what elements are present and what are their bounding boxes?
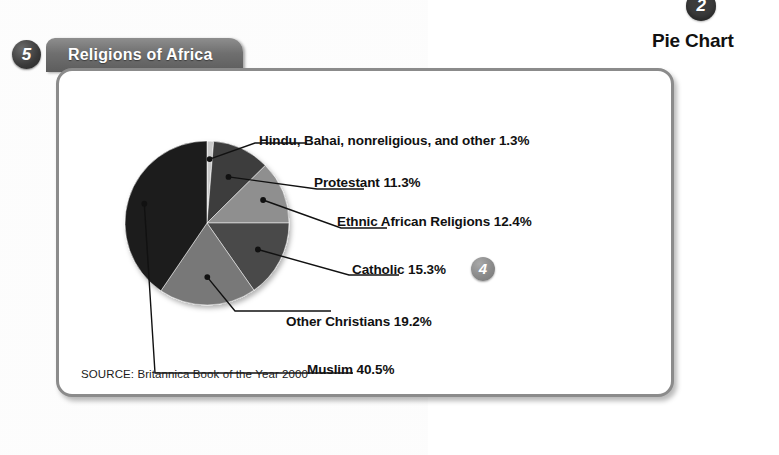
pie-slice: [207, 141, 214, 223]
callout-badge-5: 5: [12, 40, 41, 69]
pie-leader-dot: [207, 156, 213, 162]
pie-label-hindu: Hindu, Bahai, nonreligious, and other 1.…: [259, 133, 529, 148]
pie-label-ethnic-african-religions: Ethnic African Religions 12.4%: [337, 214, 532, 229]
pie-leader-dots: [141, 156, 266, 280]
pie-slices: [125, 141, 289, 305]
pie-slice: [125, 141, 207, 291]
pie-chart-figure: [59, 71, 677, 400]
pie-slice: [207, 165, 289, 223]
pie-chart-svg: [59, 71, 677, 400]
pie-label-other-christians: Other Christians 19.2%: [286, 314, 432, 329]
pie-label-catholic: Catholic 15.3%: [352, 262, 446, 277]
chart-header-tab: Religions of Africa: [46, 38, 243, 72]
callout-badge-4: 4: [471, 257, 495, 281]
pie-label-muslim: Muslim 40.5%: [307, 362, 394, 377]
pie-leader-line: [144, 204, 353, 373]
pie-label-protestant: Protestant 11.3%: [314, 175, 420, 190]
pie-leader-dot: [226, 174, 232, 180]
pie-slice: [207, 223, 289, 290]
chart-title: Religions of Africa: [68, 46, 213, 64]
pie-slice: [161, 223, 254, 305]
pie-leader-line: [207, 277, 331, 311]
pie-slice: [207, 141, 265, 223]
pie-chart-caption: Pie Chart: [652, 30, 734, 52]
pie-leader-dot: [141, 201, 147, 207]
source-note: SOURCE: Britannica Book of the Year 2000: [81, 368, 308, 380]
callout-badge-2: 2: [686, 0, 716, 21]
chart-panel: Hindu, Bahai, nonreligious, and other 1.…: [56, 68, 674, 397]
pie-leader-dot: [255, 247, 261, 253]
pie-leader-dot: [204, 274, 210, 280]
pie-leader-dot: [260, 197, 266, 203]
